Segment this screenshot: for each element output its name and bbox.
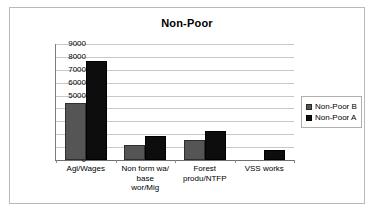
bar-group	[56, 44, 116, 160]
x-axis-tick	[294, 160, 295, 163]
bar-group	[175, 44, 235, 160]
legend-label-non-poor-a: Non-Poor A	[315, 113, 356, 122]
bar[interactable]	[184, 140, 205, 160]
bar-group	[116, 44, 176, 160]
x-axis-tick	[235, 160, 236, 163]
bar[interactable]	[145, 136, 166, 160]
legend-item[interactable]: Non-Poor A	[306, 112, 357, 123]
x-axis-label-line: VSS works	[229, 164, 301, 174]
x-axis-category-labels: Agl/WagesNon form wa/basewor/MigForestpr…	[56, 164, 294, 206]
bar[interactable]	[264, 150, 285, 160]
bar[interactable]	[65, 103, 86, 160]
x-axis-tick	[56, 160, 57, 163]
legend-swatch-non-poor-b	[306, 104, 312, 110]
bars-layer	[56, 44, 294, 160]
bar[interactable]	[205, 131, 226, 160]
x-axis-tick	[116, 160, 117, 163]
chart-legend: Non-Poor B Non-Poor A	[301, 96, 362, 128]
chart-title: Non-Poor	[10, 17, 364, 29]
legend-item[interactable]: Non-Poor B	[306, 101, 357, 112]
x-axis-category-label: VSS works	[229, 164, 301, 174]
chart-container: Non-Poor 0100020003000400050006000700080…	[9, 7, 365, 204]
bar-group	[235, 44, 295, 160]
x-axis-tick	[175, 160, 176, 163]
plot-area: 0100020003000400050006000700080009000	[56, 44, 294, 160]
legend-swatch-non-poor-a	[306, 115, 312, 121]
bar[interactable]	[124, 145, 145, 160]
x-axis-label-line: produ/NTFP	[169, 174, 241, 184]
bar[interactable]	[86, 61, 107, 160]
legend-label-non-poor-b: Non-Poor B	[315, 102, 357, 111]
x-axis-label-line: wor/Mig	[110, 183, 182, 193]
